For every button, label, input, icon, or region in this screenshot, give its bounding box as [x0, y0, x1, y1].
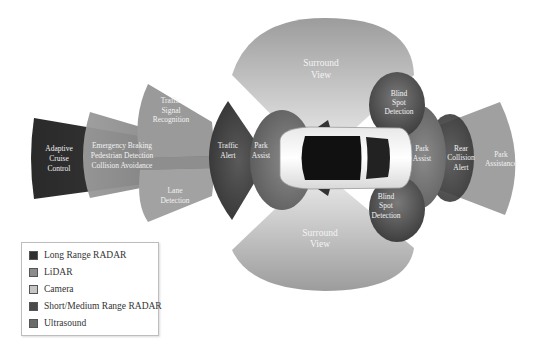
label-emergency-braking: Emergency Braking Pedestrian Detection C… [91, 141, 154, 170]
svg-text:Park: Park [254, 141, 268, 150]
legend-item-lidar: LiDAR [29, 266, 73, 278]
svg-text:Rear: Rear [454, 144, 469, 153]
legend-swatch [29, 319, 38, 328]
legend-item-short-medium-range-radar: Short/Medium Range RADAR [29, 300, 162, 312]
svg-text:Adaptive: Adaptive [45, 144, 73, 153]
svg-text:Surround: Surround [303, 58, 339, 68]
svg-text:Alert: Alert [453, 163, 469, 172]
svg-text:Park: Park [415, 144, 429, 153]
svg-text:Cruise: Cruise [49, 154, 69, 163]
svg-text:Blind: Blind [391, 89, 408, 98]
svg-text:Traffic: Traffic [218, 141, 239, 150]
svg-text:Collision: Collision [447, 153, 475, 162]
svg-text:Surround: Surround [302, 228, 338, 238]
svg-text:Traffic: Traffic [161, 96, 182, 105]
legend-label: Short/Medium Range RADAR [44, 301, 162, 311]
legend-swatch [29, 302, 38, 311]
legend-label: Long Range RADAR [44, 250, 126, 260]
legend-label: Ultrasound [44, 318, 86, 328]
legend-swatch [29, 285, 38, 294]
svg-text:Lane: Lane [168, 186, 184, 195]
legend-label: Camera [44, 284, 74, 294]
lane-detection-zone [139, 168, 215, 222]
legend-item-camera: Camera [29, 283, 74, 295]
svg-text:Assist: Assist [413, 154, 432, 163]
svg-text:Blind: Blind [378, 192, 395, 201]
legend-item-ultrasound: Ultrasound [29, 317, 86, 329]
legend-item-long-range-radar: Long Range RADAR [29, 249, 126, 261]
svg-text:Assist: Assist [252, 151, 271, 160]
svg-text:Collision Avoidance: Collision Avoidance [92, 161, 154, 170]
legend: Long Range RADAR LiDAR Camera Short/Medi… [21, 242, 159, 336]
svg-text:Alert: Alert [220, 151, 236, 160]
svg-text:Park: Park [494, 150, 508, 159]
svg-text:Recognition: Recognition [153, 115, 190, 124]
svg-text:View: View [310, 239, 330, 249]
legend-label: LiDAR [44, 267, 73, 277]
svg-text:Detection: Detection [384, 107, 413, 116]
svg-text:Assistance: Assistance [485, 159, 518, 168]
svg-text:Detection: Detection [371, 211, 400, 220]
svg-text:Spot: Spot [392, 98, 407, 107]
svg-text:Emergency Braking: Emergency Braking [92, 141, 152, 150]
svg-text:View: View [311, 70, 331, 80]
label-traffic-alert: Traffic Alert [218, 141, 239, 160]
svg-text:Control: Control [48, 164, 71, 173]
svg-text:Pedestrian Detection: Pedestrian Detection [91, 151, 154, 160]
svg-text:Spot: Spot [379, 201, 394, 210]
svg-text:Detection: Detection [160, 196, 189, 205]
legend-swatch [29, 251, 38, 260]
car [280, 120, 412, 196]
svg-text:Signal: Signal [161, 106, 180, 115]
legend-swatch [29, 268, 38, 277]
